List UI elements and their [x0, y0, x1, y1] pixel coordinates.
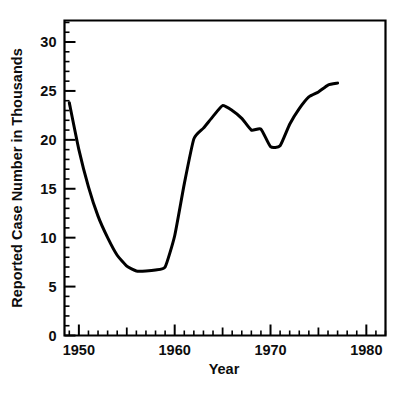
series-line-reported-cases	[69, 83, 337, 271]
chart-figure: 1950196019701980 051015202530 Year Repor…	[0, 0, 418, 395]
x-axis-ticks	[69, 325, 385, 336]
x-axis-title: Year	[209, 361, 240, 377]
y-axis-tick-labels: 051015202530	[40, 34, 56, 343]
y-axis-ticks	[65, 22, 76, 335]
y-tick-label: 5	[48, 279, 56, 295]
y-tick-label: 25	[40, 83, 56, 99]
y-tick-label: 20	[40, 132, 56, 148]
y-tick-label: 30	[40, 34, 56, 50]
data-series-group	[69, 83, 337, 271]
y-axis-title: Reported Case Number in Thousands	[9, 48, 25, 307]
x-tick-label: 1960	[159, 342, 191, 358]
y-tick-label: 10	[40, 230, 56, 246]
x-axis-tick-labels: 1950196019701980	[63, 342, 383, 358]
y-tick-label: 15	[40, 181, 56, 197]
chart-canvas: 1950196019701980 051015202530 Year Repor…	[0, 0, 418, 395]
x-tick-label: 1950	[63, 342, 95, 358]
plot-frame	[65, 21, 386, 336]
x-tick-label: 1980	[350, 342, 382, 358]
y-tick-label: 0	[48, 328, 56, 344]
x-tick-label: 1970	[254, 342, 286, 358]
